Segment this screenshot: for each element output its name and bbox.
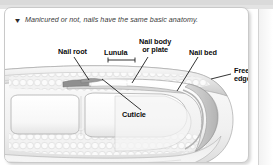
label-nail-body-line2: or plate xyxy=(139,46,171,54)
page-gutter-line xyxy=(258,9,259,165)
label-nail-bed-text: Nail bed xyxy=(189,49,217,57)
leader-line-free-edge xyxy=(211,74,231,79)
nail-anatomy-svg xyxy=(5,24,249,163)
page-top-band-inner xyxy=(0,0,273,5)
triangle-down-icon: ▼ xyxy=(13,17,21,24)
label-nail-root-text: Nail root xyxy=(58,48,87,56)
nail-anatomy-illustration xyxy=(5,24,249,163)
label-lunula: Lunula xyxy=(104,49,127,57)
figure-panel: ▼ Manicured or not, nails have the same … xyxy=(4,7,249,163)
label-lunula-text: Lunula xyxy=(104,49,127,57)
label-cuticle-text: Cuticle xyxy=(122,111,146,119)
label-nail-root: Nail root xyxy=(58,48,87,56)
page-gutter-shade xyxy=(259,9,273,165)
label-free-edge: Free edge xyxy=(234,67,249,84)
label-free-edge-line2: edge xyxy=(234,75,249,83)
label-cuticle: Cuticle xyxy=(122,111,146,119)
label-nail-bed: Nail bed xyxy=(189,49,217,57)
figure-caption-text: Manicured or not, nails have the same ba… xyxy=(25,16,198,24)
label-nail-body-or-plate: Nail body or plate xyxy=(139,38,171,55)
page-root: ▼ Manicured or not, nails have the same … xyxy=(0,0,273,165)
lunula-bracket xyxy=(108,58,135,63)
